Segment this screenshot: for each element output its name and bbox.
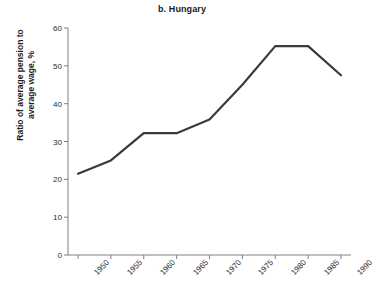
plot-svg	[68, 28, 351, 255]
x-axis-tick-labels: 195019551960196519701975198019851990	[68, 258, 351, 298]
x-axis-tick-label: 1970	[224, 258, 243, 277]
axis-lines	[68, 28, 351, 255]
x-axis-tick-label: 1960	[158, 258, 177, 277]
axis-ticks	[64, 28, 341, 259]
x-axis-tick-label: 1985	[322, 258, 341, 277]
y-axis-tick-labels: 0102030405060	[34, 28, 62, 255]
y-axis-tick-label: 40	[36, 99, 62, 108]
plot-area	[68, 28, 351, 255]
x-axis-tick-label: 1965	[191, 258, 210, 277]
y-axis-tick-label: 20	[36, 175, 62, 184]
y-axis-tick-label: 0	[36, 251, 62, 260]
x-axis-tick-label: 1990	[355, 258, 374, 277]
x-axis-tick-label: 1950	[92, 258, 111, 277]
y-axis-title-line-1: Ratio of average pension to	[15, 0, 26, 175]
y-axis-tick-label: 30	[36, 137, 62, 146]
x-axis-tick-label: 1975	[257, 258, 276, 277]
x-axis-tick-label: 1980	[290, 258, 309, 277]
y-axis-tick-label: 10	[36, 213, 62, 222]
x-axis-tick-label: 1955	[125, 258, 144, 277]
y-axis-tick-label: 60	[36, 24, 62, 33]
y-axis-tick-label: 50	[36, 61, 62, 70]
data-series-line	[78, 46, 341, 174]
chart-title: b. Hungary	[0, 4, 364, 14]
